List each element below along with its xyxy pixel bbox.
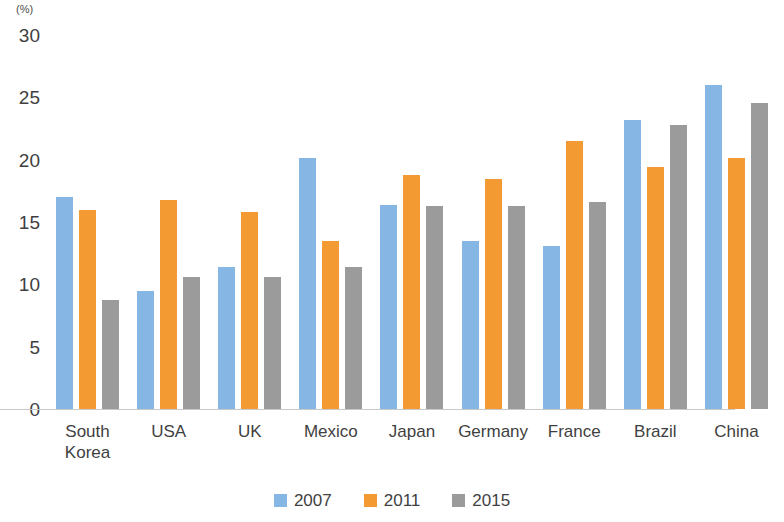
bar-group-bars: [209, 24, 290, 409]
legend-swatch-icon: [364, 494, 377, 507]
legend-item-2015[interactable]: 2015: [452, 492, 510, 509]
legend-swatch-icon: [274, 494, 287, 507]
x-axis-category-labels: South KoreaUSAUKMexicoJapanGermanyFrance…: [47, 421, 777, 481]
bar-group-bars: [615, 24, 696, 409]
bar-group: [615, 24, 696, 409]
bar-group: [209, 24, 290, 409]
bar-group: [371, 24, 452, 409]
legend-item-2011[interactable]: 2011: [364, 492, 421, 509]
bar-2015-china[interactable]: [751, 103, 768, 409]
bar-2015-mexico[interactable]: [345, 267, 362, 409]
bar-2015-brazil[interactable]: [670, 125, 687, 409]
y-tick-label: 10: [19, 275, 40, 294]
legend-swatch-icon: [452, 494, 465, 507]
bar-group-bars: [371, 24, 452, 409]
bar-2011-china[interactable]: [728, 158, 745, 410]
y-tick-label: 30: [19, 26, 40, 45]
bar-2011-germany[interactable]: [485, 179, 502, 409]
y-tick-label: 5: [29, 337, 40, 356]
bar-2007-china[interactable]: [705, 85, 722, 409]
y-tick-label: 20: [19, 150, 40, 169]
bar-2007-uk[interactable]: [218, 267, 235, 409]
legend-label: 2015: [472, 492, 510, 509]
bar-group-bars: [128, 24, 209, 409]
bar-2011-uk[interactable]: [241, 212, 258, 409]
plot-area: [47, 24, 777, 409]
bar-chart: (%) 302520151050 South KoreaUSAUKMexicoJ…: [0, 0, 784, 522]
bar-group-bars: [453, 24, 534, 409]
y-tick-label: 15: [19, 213, 40, 232]
bar-2007-mexico[interactable]: [299, 158, 316, 410]
bar-2015-japan[interactable]: [426, 206, 443, 409]
bar-group: [453, 24, 534, 409]
bar-group: [47, 24, 128, 409]
chart-legend: 200720112015: [0, 492, 784, 509]
bar-2015-germany[interactable]: [508, 206, 525, 409]
bar-2007-south-korea[interactable]: [56, 197, 73, 409]
legend-label: 2011: [384, 492, 421, 509]
bar-2011-usa[interactable]: [160, 200, 177, 409]
bar-2007-japan[interactable]: [380, 205, 397, 409]
bar-2015-uk[interactable]: [264, 277, 281, 409]
bar-2007-france[interactable]: [543, 246, 560, 409]
bar-2007-usa[interactable]: [137, 291, 154, 409]
bar-group: [696, 24, 777, 409]
bar-group-bars: [47, 24, 128, 409]
bar-2007-germany[interactable]: [462, 241, 479, 409]
bar-2011-japan[interactable]: [403, 175, 420, 409]
bar-group: [128, 24, 209, 409]
bar-2011-mexico[interactable]: [322, 241, 339, 409]
bar-group: [534, 24, 615, 409]
bar-2011-brazil[interactable]: [647, 167, 664, 409]
legend-item-2007[interactable]: 2007: [274, 492, 332, 509]
bar-2015-france[interactable]: [589, 202, 606, 409]
bar-2007-brazil[interactable]: [624, 120, 641, 409]
bar-2011-south-korea[interactable]: [79, 210, 96, 409]
bar-2011-france[interactable]: [566, 141, 583, 409]
x-axis-category-label: China: [681, 421, 784, 442]
bar-2015-south-korea[interactable]: [102, 300, 119, 409]
bar-group-bars: [534, 24, 615, 409]
bar-group-bars: [696, 24, 777, 409]
bar-group-bars: [290, 24, 371, 409]
y-tick-label: 25: [19, 88, 40, 107]
bar-2015-usa[interactable]: [183, 277, 200, 409]
bar-group: [290, 24, 371, 409]
x-axis-baseline: [0, 409, 735, 410]
legend-label: 2007: [294, 492, 332, 509]
